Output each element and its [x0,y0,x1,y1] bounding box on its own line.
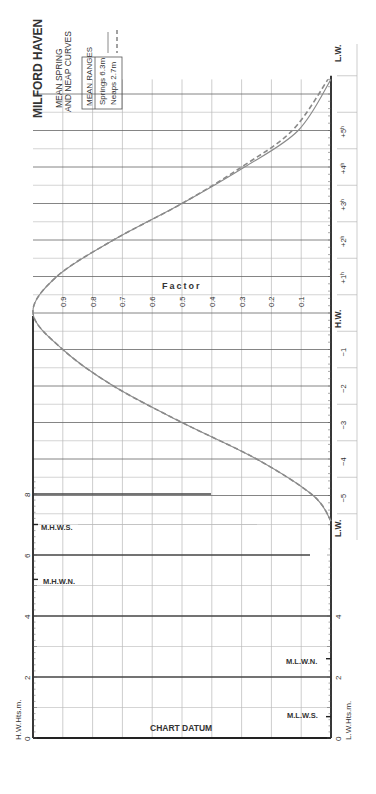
factor-tick-label: 0.4 [208,297,217,307]
factor-tick-label: 0.5 [178,297,187,307]
factor-tick-label: 0.2 [267,297,276,307]
chart-datum-label: CHART DATUM [150,723,212,733]
factor-tick-label: 0.3 [238,297,247,307]
hour-tick-label: +2ʰ [339,235,348,247]
tidal-curve-chart: 0.10.20.30.40.50.60.70.80.902468024+1ʰ+2… [0,0,376,794]
lw-time-label-bottom: L.W. [333,520,343,537]
hw-height-tick-label: 4 [23,614,32,619]
lw-height-tick-label: 0 [334,736,343,741]
factor-tick-label: 0.9 [59,297,68,307]
hw-height-tick-label: 6 [23,553,32,558]
hour-tick-label: −4 [339,457,348,466]
hw-heights-axis-label: H.W.Hts.m. [14,700,23,740]
factor-tick-label: 0.8 [89,297,98,307]
legend: MEAN RANGES Springs 6.3m Neaps 2.7m [82,30,122,109]
chart-title: MILFORD HAVEN [31,19,45,118]
lw-heights-axis-label: L.W.Hts.m. [344,701,353,740]
legend-springs: Springs 6.3m [98,58,107,105]
chart-subtitle-line2: AND NEAP CURVES [63,31,73,112]
factor-tick-label: 0.7 [118,297,127,307]
hw-height-tick-label: 0 [23,736,32,741]
mhwn-label: M.H.W.N. [43,577,75,586]
mhws-label: M.H.W.S. [41,523,73,532]
hw-height-tick-label: 8 [23,492,32,497]
legend-neaps: Neaps 2.7m [109,62,118,105]
mlws-label: M.L.W.S. [287,711,318,720]
lw-height-tick-label: 4 [334,614,343,619]
hour-tick-label: −1 [339,348,348,357]
hour-tick-label: +3ʰ [339,199,348,211]
factor-tick-label: 0.1 [297,297,306,307]
mlwn-label: M.L.W.N. [286,657,317,666]
legend-header: MEAN RANGES [85,47,94,106]
hour-tick-label: +4ʰ [339,162,348,174]
chart-labels: 0.10.20.30.40.50.60.70.80.902468024+1ʰ+2… [23,126,348,741]
lw-time-label-top: L.W. [333,45,343,62]
axis-ticks [33,44,357,738]
hour-tick-label: +5ʰ [339,126,348,138]
factor-tick-label: 0.6 [148,297,157,307]
hw-height-tick-label: 2 [23,675,32,680]
hw-time-label: H.W. [333,310,343,328]
hour-tick-label: −5 [339,494,348,503]
hour-tick-label: −2 [339,384,348,393]
hour-tick-label: +1ʰ [339,272,348,284]
hour-tick-label: −3 [339,421,348,430]
lw-height-tick-label: 2 [334,675,343,680]
factor-label: Factor [162,281,202,291]
chart-grid [33,79,331,738]
